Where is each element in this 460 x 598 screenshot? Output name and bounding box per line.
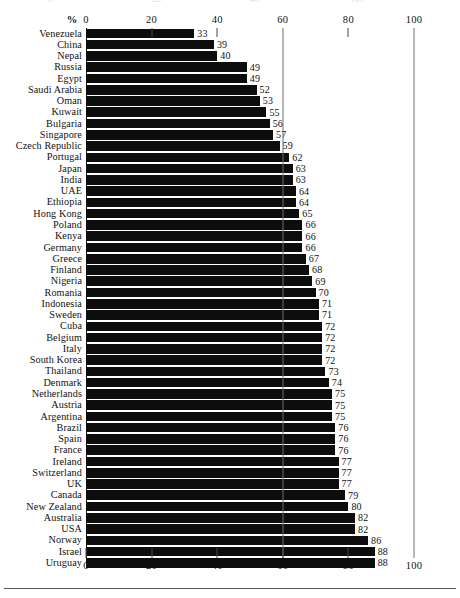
bar-row: Australia82	[0, 512, 460, 523]
bar-category-label: Brazil	[57, 422, 83, 433]
x-axis-top: 020406080100	[0, 14, 460, 28]
bar-value-label: 33	[197, 28, 207, 39]
bar-value-label: 77	[342, 456, 352, 467]
bar-value-label: 68	[312, 264, 322, 275]
bar-category-label: Kenya	[55, 230, 82, 241]
bar-row: India63	[0, 174, 460, 185]
bar-category-label: Egypt	[57, 73, 82, 84]
bar-category-label: South Korea	[30, 354, 82, 365]
bar	[86, 276, 312, 286]
bar-row: Czech Republic59	[0, 141, 460, 152]
bar-value-label: 40	[220, 50, 230, 61]
bar-row: Italy72	[0, 343, 460, 354]
bar-row: Brazil76	[0, 422, 460, 433]
bar-value-label: 79	[348, 490, 358, 501]
bar-value-label: 88	[378, 557, 388, 568]
bar-category-label: Cuba	[60, 320, 82, 331]
bar	[86, 85, 257, 95]
bar-row: Hong Kong65	[0, 208, 460, 219]
bar-row: Thailand73	[0, 366, 460, 377]
tick-mark-bottom	[282, 548, 283, 558]
bar	[86, 322, 322, 332]
bar-value-label: 76	[338, 445, 348, 456]
bar-category-label: Nepal	[57, 50, 82, 61]
bar-category-label: Italy	[63, 343, 82, 354]
bar-category-label: Saudi Arabia	[28, 84, 82, 95]
bar-row: Norway86	[0, 535, 460, 546]
bar-category-label: Portugal	[47, 151, 82, 162]
bar-category-label: Germany	[43, 242, 82, 253]
bar	[86, 62, 247, 72]
bar-value-label: 73	[328, 366, 338, 377]
bar-category-label: Belgium	[46, 332, 82, 343]
bar-category-label: UAE	[61, 185, 82, 196]
bar-category-label: Canada	[51, 489, 82, 500]
bar-value-label: 80	[351, 501, 361, 512]
bar-category-label: Argentina	[41, 411, 82, 422]
x-axis-top-tick-label: 60	[277, 14, 288, 25]
bar-value-label: 77	[342, 467, 352, 478]
bar-row: Finland68	[0, 265, 460, 276]
bar	[86, 490, 345, 500]
bar	[86, 434, 335, 444]
x-axis-top-tick-label: 40	[212, 14, 223, 25]
bar-category-label: Hong Kong	[33, 208, 82, 219]
bar-category-label: Czech Republic	[16, 140, 82, 151]
bar-row: China39	[0, 39, 460, 50]
bar	[86, 513, 355, 523]
bar	[86, 310, 319, 320]
bar-value-label: 65	[302, 208, 312, 219]
bar	[86, 220, 302, 230]
bar-row: Oman53	[0, 96, 460, 107]
x-axis-top-tick-label: 20	[146, 14, 157, 25]
bar-row: Portugal62	[0, 152, 460, 163]
bar-value-label: 63	[296, 174, 306, 185]
bar-value-label: 76	[338, 422, 348, 433]
bar	[86, 333, 322, 343]
bar-category-label: Spain	[58, 433, 82, 444]
bar-row: Nigeria69	[0, 276, 460, 287]
bar-row: UK77	[0, 479, 460, 490]
bar-row: South Korea72	[0, 355, 460, 366]
bar-value-label: 88	[378, 546, 388, 557]
bar	[86, 186, 296, 196]
bar-row: Poland66	[0, 220, 460, 231]
bar-row: Nepal40	[0, 51, 460, 62]
bar-row: Sweden71	[0, 310, 460, 321]
bar-row: France76	[0, 445, 460, 456]
bar-category-label: Ethiopia	[47, 196, 82, 207]
bar-row: Ethiopia64	[0, 197, 460, 208]
bar-value-label: 55	[269, 107, 279, 118]
bar-row: Bulgaria56	[0, 118, 460, 129]
bar-category-label: Nigeria	[51, 275, 82, 286]
bar-row: New Zealand80	[0, 501, 460, 512]
bar-category-label: Thailand	[45, 365, 82, 376]
bar	[86, 209, 299, 219]
bar	[86, 288, 316, 298]
bar-row: Denmark74	[0, 377, 460, 388]
bar-row: Israel88	[0, 546, 460, 557]
bar-value-label: 71	[322, 309, 332, 320]
bar-category-label: Israel	[59, 546, 82, 557]
bar-value-label: 39	[217, 39, 227, 50]
bar-row: Indonesia71	[0, 298, 460, 309]
bar-row: Saudi Arabia52	[0, 84, 460, 95]
bar	[86, 51, 217, 61]
bar-value-label: 52	[260, 84, 270, 95]
bar-row: Japan63	[0, 163, 460, 174]
bar-value-label: 72	[325, 332, 335, 343]
bar	[86, 468, 339, 478]
bar-value-label: 75	[335, 411, 345, 422]
bar	[86, 524, 355, 534]
bar-category-label: Indonesia	[41, 298, 82, 309]
bar-value-label: 64	[299, 197, 309, 208]
bar-value-label: 53	[263, 95, 273, 106]
bar-category-label: France	[54, 444, 82, 455]
bar	[86, 107, 266, 117]
bar-category-label: UK	[67, 478, 82, 489]
bar-row: Cuba72	[0, 321, 460, 332]
bar	[86, 355, 322, 365]
tick-mark-bottom	[86, 548, 87, 558]
bar-category-label: Australia	[44, 512, 82, 523]
bar	[86, 389, 332, 399]
